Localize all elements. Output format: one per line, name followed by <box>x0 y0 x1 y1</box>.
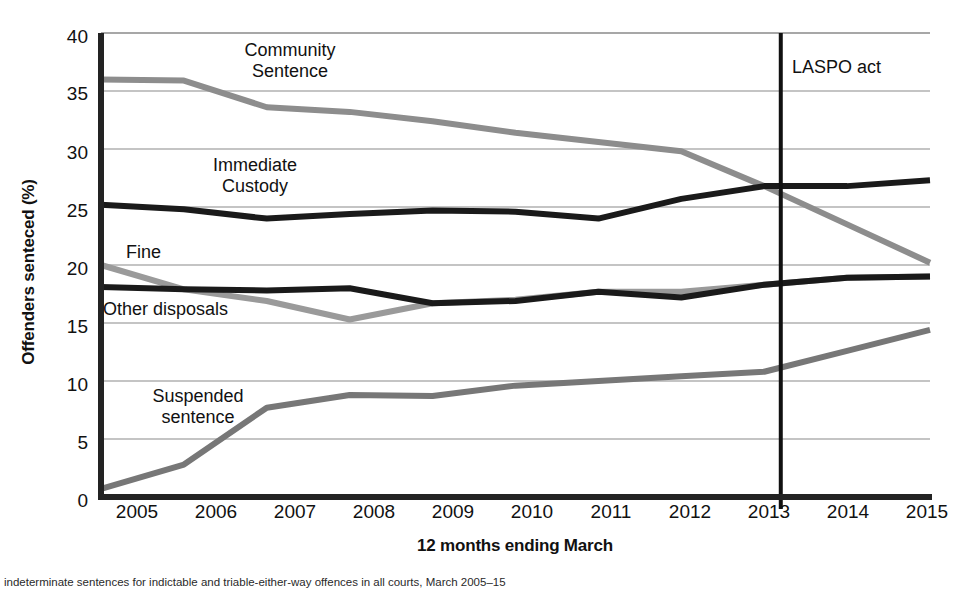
series-label-suspended-sentence-line1: Suspended <box>122 386 274 407</box>
series-label-suspended-sentence-line2: sentence <box>122 407 274 428</box>
annotation-label-laspo-act: LASPO act <box>792 57 881 78</box>
series-label-immediate-custody-line2: Custody <box>175 176 335 197</box>
figure-caption: indeterminate sentences for indictable a… <box>4 575 970 589</box>
chart-container: Offenders senteced (%) 12 months ending … <box>0 0 975 593</box>
series-label-immediate-custody: Immediate Custody <box>175 155 335 197</box>
series-label-community-sentence-line1: Community <box>205 40 375 61</box>
series-label-community-sentence-line2: Sentence <box>205 61 375 82</box>
series-label-suspended-sentence: Suspended sentence <box>122 386 274 428</box>
series-label-community-sentence: Community Sentence <box>205 40 375 82</box>
series-label-fine: Fine <box>126 242 161 263</box>
series-label-other-disposals: Other disposals <box>103 299 228 320</box>
plot-area <box>0 0 975 593</box>
series-label-immediate-custody-line1: Immediate <box>175 155 335 176</box>
